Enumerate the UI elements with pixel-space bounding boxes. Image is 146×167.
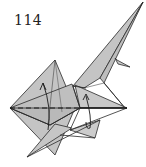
origami-diagram (0, 0, 146, 167)
right-flap (75, 85, 127, 108)
paper-model (10, 2, 143, 157)
small-spike (115, 58, 130, 67)
